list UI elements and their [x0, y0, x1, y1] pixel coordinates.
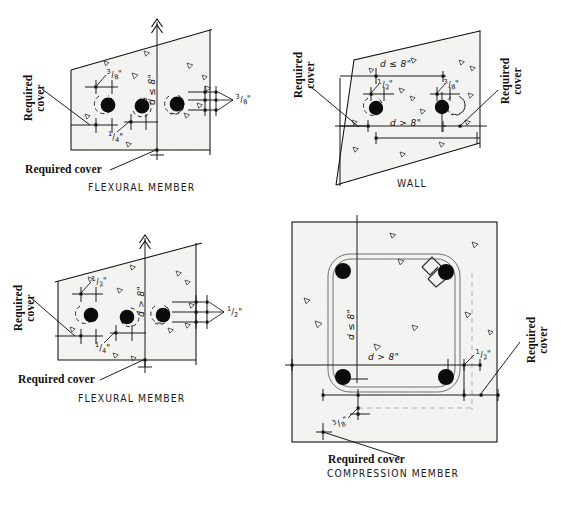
panel-flexural-member-top: Required cover Required cover 3/8" 1/4" … — [0, 0, 280, 205]
panel-caption-flexural-bottom: FLEXURAL MEMBER — [78, 393, 185, 405]
rebar-bottom-right — [438, 369, 454, 385]
dimension-bar-spacing-right: 3/8" — [235, 91, 252, 107]
rebar-2 — [120, 310, 135, 325]
dimension-bar-spacing-top: 3/8" — [106, 66, 123, 82]
aggregate-texture — [58, 245, 196, 360]
rebar-1 — [101, 98, 116, 113]
required-cover-line-1: Required — [292, 52, 304, 99]
dimension-bar-spacing-bottom: 1/4" — [108, 130, 123, 144]
required-cover-label-right: Required cover — [499, 44, 523, 118]
rebar-1 — [84, 308, 99, 323]
required-cover-line-1: Required — [22, 75, 34, 122]
required-cover-label-bottom: Required cover — [18, 373, 95, 385]
aggregate-texture — [71, 31, 210, 150]
rebar-3 — [156, 308, 171, 323]
compression-member-drawing — [280, 205, 561, 505]
dimension-vertical-depth: d ≤ 8" — [346, 309, 356, 340]
dimension-depth-note: d ≤ 8" — [147, 74, 157, 105]
required-cover-line-2: cover — [24, 294, 36, 321]
required-cover-label-left: Required cover — [12, 271, 36, 345]
panel-wall: Required cover Required cover d ≤ 8" d >… — [280, 0, 561, 205]
required-cover-line-1: Required — [12, 285, 24, 332]
required-cover-label-left: Required cover — [22, 61, 46, 135]
rebar-bottom-left — [335, 369, 351, 385]
panel-caption-compression: COMPRESSION MEMBER — [327, 468, 459, 480]
dimension-bar-spacing-top: 1/2" — [91, 273, 108, 289]
rebar-3 — [170, 97, 185, 112]
rebar-top-left — [335, 263, 351, 279]
panel-caption-flexural-top: FLEXURAL MEMBER — [88, 182, 195, 194]
rebar-1 — [369, 101, 383, 115]
dimension-right-spacing: 3/8" — [443, 76, 460, 92]
required-cover-label-bottom: Required cover — [25, 163, 102, 175]
panel-caption-wall: WALL — [397, 178, 427, 190]
panel-compression-member: Required cover Required cover d ≤ 8" d >… — [280, 205, 561, 505]
dimension-bar-spacing-bottom: 1/4" — [95, 341, 110, 355]
required-cover-line-2: cover — [34, 84, 46, 111]
dimension-bottom-depth: d > 8" — [390, 118, 421, 128]
dimension-left-spacing: 1/2" — [377, 76, 394, 92]
dimension-depth-note: d > 8" — [136, 286, 146, 317]
dimension-horizontal-depth: d > 8" — [368, 352, 399, 362]
required-cover-line-1: Required — [499, 58, 511, 105]
dimension-bar-spacing-right: 1/2" — [227, 305, 242, 319]
required-cover-line-2: cover — [304, 61, 316, 88]
panel-flexural-member-bottom: Required cover Required cover 1/2" 1/4" … — [0, 205, 280, 420]
required-cover-label-right: Required cover — [525, 303, 549, 377]
required-cover-label-bottom: Required cover — [328, 453, 405, 465]
required-cover-line-2: cover — [511, 67, 523, 94]
required-cover-line-1: Required — [525, 317, 537, 364]
aggregate-texture — [292, 222, 497, 442]
aggregate-texture — [336, 31, 480, 185]
required-cover-line-2: cover — [537, 326, 549, 353]
required-cover-label-left: Required cover — [292, 38, 316, 112]
rebar-top-right — [438, 264, 454, 280]
dimension-top-depth: d ≤ 8" — [380, 59, 411, 69]
dimension-right-spacing: 1/2" — [475, 346, 492, 362]
